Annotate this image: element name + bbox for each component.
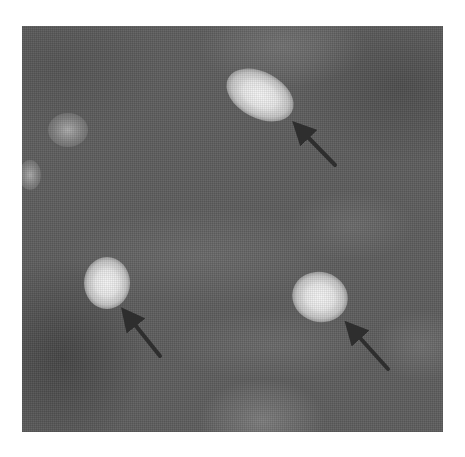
film-grain [22, 26, 443, 432]
micrograph-image [22, 26, 443, 432]
